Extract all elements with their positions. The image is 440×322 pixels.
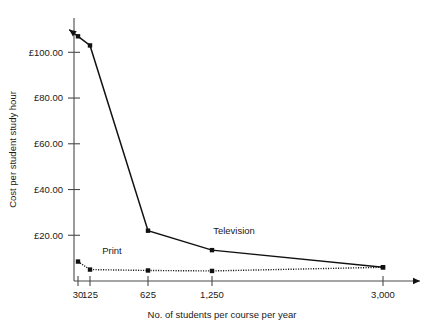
y-axis-tick-label: £80.00	[34, 92, 63, 103]
y-axis-tick-label: £20.00	[34, 230, 63, 241]
x-axis-tick-label: 625	[140, 289, 156, 300]
x-axis-tick-label: 125	[82, 289, 98, 300]
x-axis-ticks: 301256251,2503,000	[73, 276, 395, 300]
data-point-marker-television-1250	[210, 248, 214, 252]
data-point-marker-television-125	[88, 43, 92, 47]
series-annotation-print: Print	[102, 245, 122, 256]
y-axis-tick-label: £60.00	[34, 138, 63, 149]
x-axis-group: 301256251,2503,000	[73, 276, 420, 300]
x-axis-tick-label: 1,250	[200, 289, 224, 300]
data-point-marker-print-625	[146, 268, 150, 272]
data-point-marker-print-3000	[381, 265, 385, 269]
data-point-marker-print-1250	[210, 269, 214, 273]
data-point-marker-print-30	[76, 259, 80, 263]
data-series-group	[69, 30, 385, 274]
cost-per-study-hour-line-chart: £20.00£40.00£60.00£80.00£100.00 30125625…	[0, 0, 440, 322]
series-annotation-television: Television	[213, 225, 255, 236]
y-axis-tick-label: £100.00	[29, 47, 63, 58]
data-point-marker-print-125	[88, 267, 92, 271]
y-axis-title: Cost per student study hour	[7, 91, 18, 208]
x-axis-tick-label: 3,000	[371, 289, 395, 300]
x-axis-arrow-icon	[413, 278, 420, 284]
chart-container: £20.00£40.00£60.00£80.00£100.00 30125625…	[0, 0, 440, 322]
x-axis-title: No. of students per course per year	[148, 309, 297, 320]
y-axis-tick-label: £40.00	[34, 184, 63, 195]
data-point-marker-television-625	[146, 228, 150, 232]
y-axis-group: £20.00£40.00£60.00£80.00£100.00	[29, 18, 80, 281]
y-axis-ticks: £20.00£40.00£60.00£80.00£100.00	[29, 47, 80, 241]
